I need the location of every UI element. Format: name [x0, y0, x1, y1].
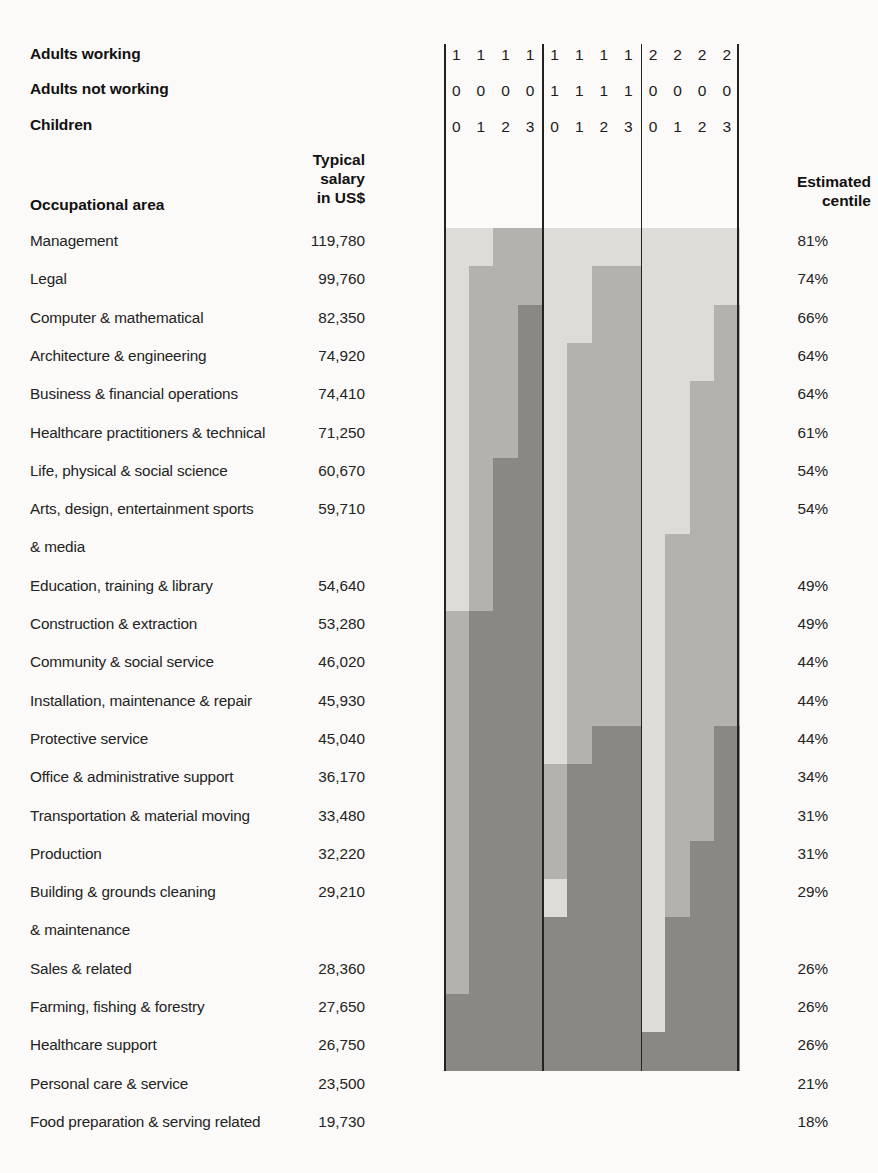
heatmap-cell	[616, 649, 641, 688]
header-digit: 1	[542, 40, 567, 70]
heatmap-cell	[518, 381, 543, 420]
heatmap-cell	[690, 573, 715, 612]
heatmap-cell	[444, 573, 469, 612]
heatmap-cell	[542, 879, 567, 918]
heatmap-cell	[616, 496, 641, 535]
heatmap-cell	[444, 803, 469, 842]
heatmap-cell	[592, 420, 617, 459]
heatmap-cell	[518, 917, 543, 956]
heatmap-cell	[444, 420, 469, 459]
heatmap-cell	[592, 305, 617, 344]
heatmap-cell	[567, 688, 592, 727]
heatmap-cell	[518, 649, 543, 688]
heatmap-cell	[542, 688, 567, 727]
header-digit: 3	[714, 112, 739, 142]
heatmap-cell	[567, 496, 592, 535]
heatmap-cell	[469, 228, 494, 267]
heatmap-cell	[469, 611, 494, 650]
heatmap-cell	[714, 420, 739, 459]
heatmap-cell	[542, 764, 567, 803]
heatmap-cell	[567, 343, 592, 382]
heatmap-cell	[567, 266, 592, 305]
heatmap-cell	[567, 649, 592, 688]
header-digit: 2	[641, 40, 666, 70]
heatmap-cell	[690, 956, 715, 995]
estimated-centile-value: 31%	[770, 807, 828, 825]
heatmap-cell	[641, 688, 666, 727]
typical-salary-value: 36,170	[245, 768, 365, 786]
occupation-label: & maintenance	[30, 921, 130, 939]
typical-salary-value: 46,020	[245, 653, 365, 671]
heatmap-cell	[444, 343, 469, 382]
heatmap-cell	[592, 228, 617, 267]
typical-salary-value: 71,250	[245, 424, 365, 442]
heatmap-cell	[518, 420, 543, 459]
heatmap-cell	[567, 726, 592, 765]
household-configuration-header-grid: 111111112222000011110000012301230123	[444, 40, 739, 155]
heatmap-cell	[690, 994, 715, 1033]
group-separator-rule	[444, 44, 446, 1071]
heatmap-cell	[444, 266, 469, 305]
heatmap-cell	[469, 266, 494, 305]
heatmap-cell	[469, 496, 494, 535]
heatmap-cell	[592, 994, 617, 1033]
heatmap-cell	[444, 381, 469, 420]
heatmap-cell	[616, 458, 641, 497]
header-digit: 1	[469, 40, 494, 70]
header-digit: 0	[444, 112, 469, 142]
heatmap-cell	[641, 1032, 666, 1071]
heatmap-cell	[493, 228, 518, 267]
heatmap-cell	[714, 458, 739, 497]
heatmap-cell	[469, 956, 494, 995]
heatmap-cell	[469, 458, 494, 497]
heatmap-cell	[444, 841, 469, 880]
header-digit: 2	[493, 112, 518, 142]
heatmap-cell	[518, 764, 543, 803]
heatmap-cell	[518, 496, 543, 535]
heatmap-cell	[542, 803, 567, 842]
heatmap-cell	[592, 611, 617, 650]
typical-salary-value: 74,410	[245, 385, 365, 403]
heatmap-cell	[542, 458, 567, 497]
heatmap-cell	[641, 994, 666, 1033]
heatmap-cell	[616, 611, 641, 650]
heatmap-cell	[542, 420, 567, 459]
heatmap-cell	[690, 917, 715, 956]
heatmap-cell	[518, 573, 543, 612]
heatmap-cell	[542, 1032, 567, 1071]
heatmap-cell	[518, 458, 543, 497]
heatmap-cell	[714, 764, 739, 803]
heatmap-cell	[469, 803, 494, 842]
heatmap-cell	[665, 879, 690, 918]
heatmap-cell	[493, 841, 518, 880]
heatmap-cell	[616, 305, 641, 344]
heatmap-cell	[714, 688, 739, 727]
heatmap-cell	[567, 381, 592, 420]
heatmap-cell	[444, 611, 469, 650]
heatmap-cell	[444, 458, 469, 497]
occupation-label: Production	[30, 845, 102, 863]
heatmap-cell	[714, 343, 739, 382]
heatmap-cell	[616, 228, 641, 267]
heatmap-cell	[469, 420, 494, 459]
heatmap-cell	[665, 917, 690, 956]
typical-salary-value: 29,210	[245, 883, 365, 901]
heatmap-cell	[592, 573, 617, 612]
heatmap-cell	[592, 496, 617, 535]
occupation-label: Building & grounds cleaning	[30, 883, 216, 901]
typical-salary-value: 45,040	[245, 730, 365, 748]
heatmap-cell	[518, 343, 543, 382]
heatmap-cell	[641, 917, 666, 956]
typical-salary-value: 53,280	[245, 615, 365, 633]
header-digit: 1	[616, 76, 641, 106]
occupation-label: Farming, fishing & forestry	[30, 998, 204, 1016]
estimated-centile-value: 44%	[770, 692, 828, 710]
occupation-label: & media	[30, 538, 85, 556]
heatmap-cell	[616, 1032, 641, 1071]
heatmap-cell	[690, 420, 715, 459]
heatmap-cell	[469, 343, 494, 382]
heatmap-cell	[469, 573, 494, 612]
heatmap-cell	[690, 764, 715, 803]
column-header-occupational-area: Occupational area	[30, 196, 164, 214]
heatmap-cell	[690, 611, 715, 650]
